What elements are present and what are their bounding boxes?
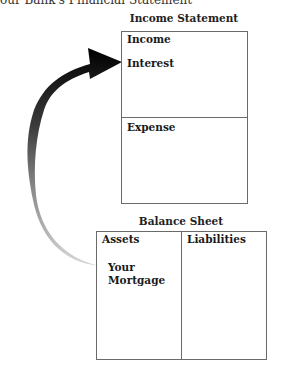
income-statement-title: Income Statement: [121, 12, 247, 24]
liabilities-column-label: Liabilities: [187, 233, 246, 245]
assets-liabilities-divider: [181, 232, 182, 359]
balance-sheet-box: Assets Your Mortgage Liabilities: [96, 231, 267, 360]
income-section-label: Income: [127, 33, 171, 45]
balance-sheet-title: Balance Sheet: [96, 215, 266, 227]
assets-column-label: Assets: [102, 233, 139, 245]
expense-section-label: Expense: [127, 121, 176, 133]
mortgage-item-line1: Your: [108, 261, 135, 273]
income-statement-box: Income Interest Expense: [121, 31, 248, 204]
interest-item: Interest: [127, 57, 174, 69]
mortgage-item-line2: Mortgage: [108, 274, 165, 286]
income-expense-divider: [122, 117, 247, 118]
